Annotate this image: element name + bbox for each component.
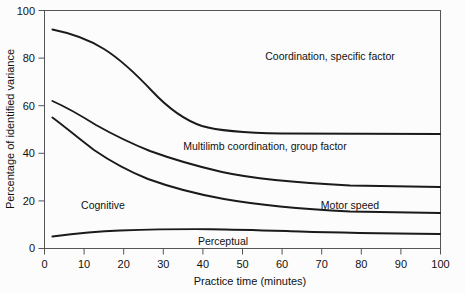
x-tick-label-40: 40: [197, 258, 209, 270]
x-tick-label-80: 80: [355, 258, 367, 270]
x-tick-label-0: 0: [41, 258, 47, 270]
y-tick-label-20: 20: [23, 195, 35, 207]
x-tick-label-50: 50: [236, 258, 248, 270]
band-label-motor-speed: Motor speed: [321, 199, 380, 211]
x-tick-label-90: 90: [395, 258, 407, 270]
x-axis-tick-labels: 0 10 20 30 40 50 60 70 80 90 100: [41, 258, 449, 270]
y-tick-label-40: 40: [23, 147, 35, 159]
y-tick-label-0: 0: [29, 242, 35, 254]
band-label-cognitive: Cognitive: [81, 199, 125, 211]
band-label-coordination-specific: Coordination, specific factor: [265, 50, 395, 62]
chart-figure: 0 20 40 60 80 100 0 10 20 30 40: [0, 0, 465, 293]
y-axis-title: Percentage of identified variance: [4, 49, 16, 209]
y-tick-label-100: 100: [17, 5, 35, 17]
x-tick-label-20: 20: [118, 258, 130, 270]
y-axis-tick-labels: 0 20 40 60 80 100: [17, 5, 35, 255]
band-labels: Coordination, specific factor Multilimb …: [81, 50, 395, 247]
x-tick-label-10: 10: [78, 258, 90, 270]
x-axis-ticks: [45, 249, 441, 255]
x-tick-label-60: 60: [276, 258, 288, 270]
band-label-perceptual: Perceptual: [198, 235, 248, 247]
y-tick-label-60: 60: [23, 100, 35, 112]
x-tick-label-70: 70: [316, 258, 328, 270]
x-tick-label-30: 30: [157, 258, 169, 270]
y-tick-label-80: 80: [23, 52, 35, 64]
band-label-multilimb-group: Multilimb coordination, group factor: [183, 140, 347, 152]
curve-coordination-specific: [52, 30, 440, 135]
x-axis-title: Practice time (minutes): [194, 275, 306, 287]
x-tick-label-100: 100: [431, 258, 449, 270]
variance-by-practice-time-chart: 0 20 40 60 80 100 0 10 20 30 40: [0, 0, 465, 293]
y-axis-ticks: [39, 11, 45, 249]
